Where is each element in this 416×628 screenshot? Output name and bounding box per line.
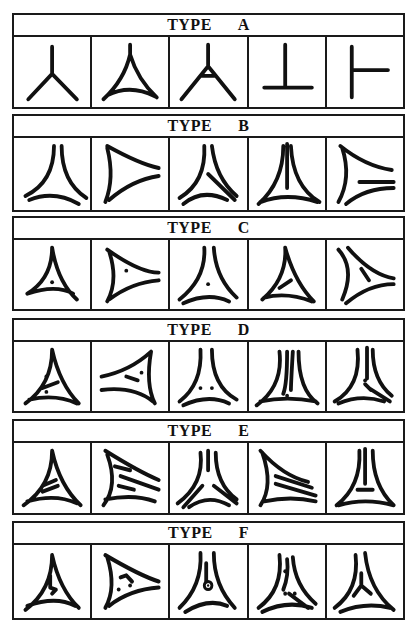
glyph-icon [327,342,403,413]
glyph-cell-e3 [170,443,248,515]
glyph-cell-b3 [170,138,248,212]
glyph-cell-a1 [14,37,92,109]
glyph-cell-d5 [327,342,403,413]
glyph-icon [92,545,168,620]
glyph-icon [92,342,168,413]
glyph-icon [14,545,90,620]
type-label: TYPE [167,218,212,238]
type-letter: D [238,321,250,338]
panel-header: TYPEC [14,218,403,240]
panel-header: TYPED [14,320,403,342]
type-letter: B [238,117,249,134]
glyph-icon [327,138,403,212]
type-panel-f: TYPEF [12,521,405,620]
type-letter: C [238,219,250,236]
glyph-icon [249,342,325,413]
glyph-icon [249,37,325,109]
glyph-cell-f1 [14,545,92,620]
glyph-cell-c5 [327,240,403,311]
glyph-icon [14,443,90,515]
glyph-row [14,37,403,109]
glyph-icon [92,138,168,212]
glyph-cell-e5 [327,443,403,515]
glyph-icon [14,342,90,413]
glyph-cell-c1 [14,240,92,311]
type-label: TYPE [167,15,212,35]
glyph-icon [170,443,246,515]
glyph-cell-b5 [327,138,403,212]
type-panel-e: TYPEE [12,419,405,515]
glyph-row [14,138,403,212]
glyph-cell-a5 [327,37,403,109]
glyph-row [14,443,403,515]
glyph-row [14,342,403,413]
type-letter: A [238,16,250,33]
glyph-cell-d2 [92,342,170,413]
glyph-icon [170,138,246,212]
glyph-icon [170,545,246,620]
type-label: TYPE [168,421,213,441]
glyph-row [14,545,403,620]
type-label: TYPE [168,523,213,543]
glyph-cell-e4 [249,443,327,515]
glyph-cell-b1 [14,138,92,212]
glyph-icon [249,138,325,212]
glyph-cell-d4 [249,342,327,413]
glyph-cell-f5 [327,545,403,620]
type-label: TYPE [167,320,212,340]
glyph-cell-f4 [249,545,327,620]
glyph-cell-c4 [249,240,327,311]
glyph-cell-a3 [170,37,248,109]
type-panel-d: TYPED [12,318,405,413]
glyph-icon [327,443,403,515]
glyph-icon [92,240,168,311]
glyph-icon [249,240,325,311]
glyph-cell-a2 [92,37,170,109]
glyph-cell-f2 [92,545,170,620]
glyph-cell-c3 [170,240,248,311]
glyph-cell-a4 [249,37,327,109]
glyph-icon [92,443,168,515]
glyph-cell-c2 [92,240,170,311]
glyph-cell-f3 [170,545,248,620]
type-letter: F [239,524,249,541]
panel-header: TYPEB [14,116,403,138]
glyph-cell-d1 [14,342,92,413]
glyph-icon [170,240,246,311]
panel-header: TYPEF [14,523,403,545]
type-panel-c: TYPEC [12,216,405,311]
glyph-icon [170,342,246,413]
glyph-row [14,240,403,311]
type-label: TYPE [168,116,213,136]
glyph-icon [92,37,168,109]
glyph-cell-e2 [92,443,170,515]
glyph-icon [327,240,403,311]
glyph-cell-e1 [14,443,92,515]
glyph-cell-d3 [170,342,248,413]
panel-header: TYPEE [14,421,403,443]
glyph-cell-b4 [249,138,327,212]
type-panel-a: TYPEA [12,13,405,109]
glyph-icon [327,545,403,620]
glyph-icon [14,240,90,311]
type-panel-b: TYPEB [12,114,405,212]
glyph-icon [14,138,90,212]
glyph-icon [170,37,246,109]
glyph-icon [327,37,403,109]
glyph-icon [14,37,90,109]
glyph-icon [249,545,325,620]
type-letter: E [238,422,249,439]
glyph-cell-b2 [92,138,170,212]
panel-header: TYPEA [14,15,403,37]
glyph-icon [249,443,325,515]
